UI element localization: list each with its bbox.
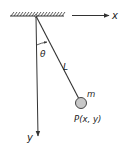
y-axis-label: y — [26, 132, 34, 143]
length-label: L — [63, 62, 68, 72]
pendulum-bob — [76, 98, 87, 109]
y-axis-arrow — [36, 17, 38, 136]
x-axis-label: x — [111, 10, 118, 21]
mass-label: m — [87, 89, 95, 99]
pendulum-diagram: x y θ L m P(x, y) — [0, 0, 123, 147]
angle-theta-label: θ — [40, 49, 46, 59]
angle-arc — [37, 42, 47, 45]
point-label: P(x, y) — [74, 114, 101, 124]
